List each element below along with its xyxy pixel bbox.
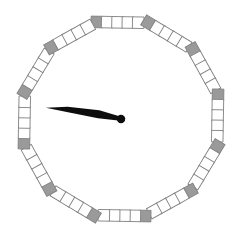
polygon-dial-widget	[0, 0, 242, 251]
dial-canvas	[0, 0, 242, 251]
needle-hub	[117, 115, 125, 123]
